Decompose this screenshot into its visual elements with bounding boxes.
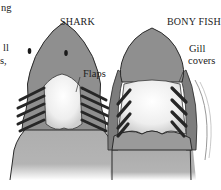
shark-eye-left bbox=[28, 48, 32, 54]
shark-title: SHARK bbox=[60, 16, 95, 28]
bony-fish-head bbox=[120, 28, 183, 82]
bony-fish-title: BONY FISH bbox=[167, 16, 221, 28]
covers-label: covers bbox=[188, 55, 215, 67]
cutoff-text-line3: s, bbox=[0, 55, 7, 67]
cutoff-text-line1: ng bbox=[1, 2, 12, 14]
shark-eye-right bbox=[64, 50, 68, 56]
gill-label: Gill bbox=[189, 43, 205, 55]
flaps-label: Flaps bbox=[83, 68, 106, 80]
cutoff-text-line2: ll bbox=[3, 42, 9, 54]
diagram-canvas bbox=[0, 0, 221, 190]
shark-illustration bbox=[10, 22, 118, 180]
shark-throat bbox=[44, 74, 82, 129]
